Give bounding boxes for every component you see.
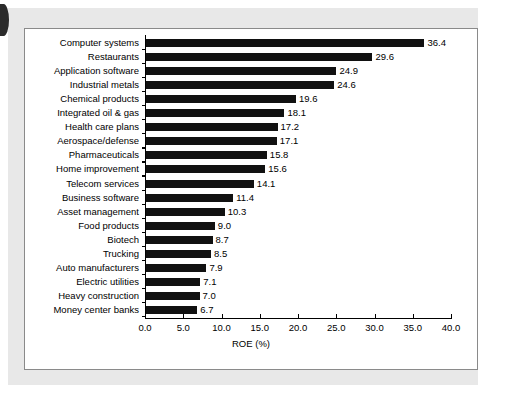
category-label: Aerospace/defense: [25, 136, 139, 146]
category-label: Trucking: [25, 249, 139, 259]
x-axis-tick: [375, 314, 376, 318]
y-axis-tick: [142, 204, 146, 205]
x-axis-tick-label: 25.0: [316, 322, 356, 333]
y-axis-tick: [142, 133, 146, 134]
category-label: Electric utilities: [25, 277, 139, 287]
bar: [146, 222, 215, 230]
y-axis-tick: [142, 175, 146, 176]
bar: [146, 53, 372, 61]
y-axis-tick: [142, 232, 146, 233]
category-label: Health care plans: [25, 122, 139, 132]
bar-value-label: 7.0: [203, 291, 216, 301]
y-axis-tick: [142, 302, 146, 303]
bar-value-label: 7.9: [209, 263, 222, 273]
x-axis-tick-label: 0.0: [125, 322, 165, 333]
x-axis-tick: [336, 314, 337, 318]
y-axis-tick: [142, 147, 146, 148]
y-axis-tick: [142, 218, 146, 219]
y-axis-tick: [142, 105, 146, 106]
x-axis-tick: [222, 314, 223, 318]
category-label: Application software: [25, 66, 139, 76]
category-label: Chemical products: [25, 94, 139, 104]
x-axis-tick-label: 5.0: [163, 322, 203, 333]
bar: [146, 278, 200, 286]
bar: [146, 137, 277, 145]
bar-value-label: 24.9: [339, 66, 358, 76]
bar-value-label: 24.6: [337, 80, 356, 90]
x-axis-tick-label: 30.0: [355, 322, 395, 333]
bar-value-label: 19.6: [299, 94, 318, 104]
y-axis-tick: [142, 77, 146, 78]
category-label: Biotech: [25, 235, 139, 245]
y-axis-tick: [142, 246, 146, 247]
bar-value-label: 17.2: [281, 122, 300, 132]
bar: [146, 306, 197, 314]
x-axis-tick: [260, 314, 261, 318]
bar: [146, 109, 284, 117]
bar: [146, 95, 296, 103]
bar-value-label: 17.1: [280, 136, 299, 146]
y-axis-tick: [142, 274, 146, 275]
bar-value-label: 14.1: [257, 179, 276, 189]
bar-value-label: 8.5: [214, 249, 227, 259]
y-axis-tick: [142, 288, 146, 289]
category-label: Computer systems: [25, 38, 139, 48]
bar: [146, 81, 334, 89]
x-axis-tick: [145, 314, 146, 318]
category-label: Integrated oil & gas: [25, 108, 139, 118]
x-axis-tick-label: 35.0: [393, 322, 433, 333]
bar: [146, 123, 278, 131]
chart-frame: Computer systems36.4Restaurants29.6Appli…: [24, 28, 478, 370]
x-axis-tick: [451, 314, 452, 318]
category-label: Industrial metals: [25, 80, 139, 90]
x-axis-tick: [183, 314, 184, 318]
bar: [146, 180, 254, 188]
bar-value-label: 6.7: [200, 305, 213, 315]
category-label: Auto manufacturers: [25, 263, 139, 273]
bar-value-label: 9.0: [218, 221, 231, 231]
bar: [146, 236, 213, 244]
bar-value-label: 15.8: [270, 150, 289, 160]
y-axis-tick: [142, 119, 146, 120]
category-label: Home improvement: [25, 164, 139, 174]
bar: [146, 165, 265, 173]
y-axis-tick: [142, 190, 146, 191]
x-axis-title: ROE (%): [25, 338, 477, 349]
category-label: Telecom services: [25, 179, 139, 189]
bar: [146, 208, 225, 216]
bar-value-label: 36.4: [427, 38, 446, 48]
x-axis-tick-label: 10.0: [202, 322, 242, 333]
bar: [146, 39, 424, 47]
bar: [146, 292, 200, 300]
category-label: Pharmaceuticals: [25, 150, 139, 160]
x-axis-tick-label: 15.0: [240, 322, 280, 333]
bar: [146, 151, 267, 159]
x-axis-tick-label: 40.0: [431, 322, 471, 333]
category-label: Business software: [25, 193, 139, 203]
bar: [146, 67, 336, 75]
bar-value-label: 10.3: [228, 207, 247, 217]
bar-chart-plot-area: Computer systems36.4Restaurants29.6Appli…: [25, 29, 477, 369]
x-axis-line: [145, 318, 452, 319]
bar-value-label: 8.7: [216, 235, 229, 245]
bar-value-label: 15.6: [268, 164, 287, 174]
category-label: Asset management: [25, 207, 139, 217]
x-axis-tick-label: 20.0: [278, 322, 318, 333]
bar: [146, 250, 211, 258]
category-label: Heavy construction: [25, 291, 139, 301]
x-axis-tick: [413, 314, 414, 318]
category-label: Food products: [25, 221, 139, 231]
y-axis-tick: [142, 161, 146, 162]
y-axis-tick: [142, 49, 146, 50]
y-axis-tick: [142, 91, 146, 92]
bar-value-label: 11.4: [236, 193, 254, 203]
category-label: Restaurants: [25, 52, 139, 62]
bar-value-label: 29.6: [375, 52, 394, 62]
y-axis-tick: [142, 63, 146, 64]
bar-value-label: 18.1: [287, 108, 306, 118]
category-label: Money center banks: [25, 305, 139, 315]
y-axis-tick: [142, 260, 146, 261]
x-axis-tick: [298, 314, 299, 318]
bar-value-label: 7.1: [203, 277, 216, 287]
bar: [146, 264, 206, 272]
